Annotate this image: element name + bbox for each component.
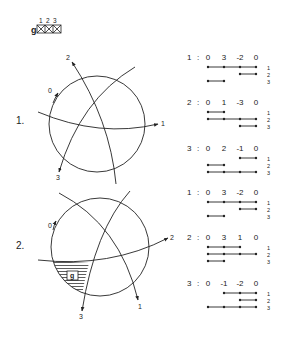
row-label: 2: [267, 163, 270, 169]
block-value: 0: [254, 53, 259, 62]
block-value: 2: [222, 144, 227, 153]
sequence-row: 2: [207, 252, 270, 258]
row-label: 2: [267, 117, 270, 123]
row-label: 2: [267, 207, 270, 213]
sequence-row: 2: [207, 163, 270, 169]
row-label: 3: [267, 124, 270, 130]
diagram-1-curve-2-label: 2: [66, 54, 70, 61]
block-value: 0: [254, 144, 259, 153]
row-label: 2: [267, 72, 270, 78]
block-sep: :: [197, 188, 199, 197]
sequence-row: 1: [207, 65, 270, 71]
diagram-2-label: 2.: [16, 240, 24, 251]
block-value: 1: [238, 233, 243, 242]
diagram-1-curve-2: [72, 62, 116, 184]
sequence-row: 1: [207, 200, 270, 206]
block-value: 0: [206, 233, 211, 242]
block-sep: :: [197, 279, 199, 288]
row-label: 1: [267, 245, 270, 251]
sequence-row: 3: [207, 305, 270, 311]
sequence-row: 2: [239, 72, 270, 78]
legend: g 1 2 3: [31, 17, 61, 35]
block-value: 0: [206, 53, 211, 62]
sequence-block: 2:0310123: [187, 233, 270, 265]
block-value: 3: [222, 53, 227, 62]
block-head: 1: [187, 188, 192, 197]
sequence-row: 2: [207, 117, 270, 123]
legend-col-2: 2: [46, 17, 50, 24]
block-value: 0: [254, 233, 259, 242]
row-label: 3: [267, 170, 270, 176]
legend-prefix: g: [31, 25, 37, 35]
block-value: 0: [206, 188, 211, 197]
row-label: 3: [267, 305, 270, 311]
block-value: -2: [236, 279, 244, 288]
sequence-row: 3: [239, 124, 270, 130]
block-value: -2: [236, 53, 244, 62]
diagram-1-curve-0: [53, 93, 58, 103]
block-value: 3: [222, 233, 227, 242]
block-value: 0: [254, 279, 259, 288]
legend-boxes: [37, 25, 61, 33]
row-label: 2: [267, 298, 270, 304]
block-head: 3: [187, 144, 192, 153]
row-label: 1: [267, 200, 270, 206]
row-label: 3: [267, 79, 270, 85]
sequence-row: 2: [239, 298, 270, 304]
block-value: 0: [206, 144, 211, 153]
block-head: 2: [187, 98, 192, 107]
sequence-row: 1: [207, 245, 270, 251]
diagram-1-curve-3-label: 3: [56, 174, 60, 181]
diagram-canvas: g 1 2 3 1. 0 1 2 3: [0, 0, 282, 340]
block-sep: :: [197, 98, 199, 107]
diagram-2-shaded-region: [40, 261, 89, 296]
sequence-row: 1: [207, 110, 270, 116]
sequence-row: 2: [239, 207, 270, 213]
diagram-1-curve-1-label: 1: [161, 120, 165, 127]
block-value: 0: [206, 98, 211, 107]
sequence-block: 3:0-1-20123: [187, 279, 270, 311]
diagram-2: [38, 191, 168, 311]
diagram-2-curve-1-label: 1: [138, 303, 142, 310]
diagram-2-curve-0-label: 0: [48, 222, 52, 229]
block-head: 3: [187, 279, 192, 288]
sequence-row: 1: [239, 156, 270, 162]
row-label: 1: [267, 65, 270, 71]
block-value: -1: [236, 144, 244, 153]
sequence-row: 1: [223, 291, 270, 297]
sequence-row: 3: [207, 79, 270, 85]
sequence-block: 1:03-20123: [187, 53, 270, 85]
diagram-1-curve-1: [38, 112, 158, 129]
block-head: 1: [187, 53, 192, 62]
row-label: 2: [267, 252, 270, 258]
diagram-2-shaded-label: g: [70, 272, 74, 280]
block-head: 2: [187, 233, 192, 242]
diagram-2-curve-3-label: 3: [79, 313, 83, 320]
block-sep: :: [197, 53, 199, 62]
legend-col-1: 1: [39, 17, 43, 24]
block-sep: :: [197, 144, 199, 153]
row-label: 1: [267, 291, 270, 297]
block-value: 0: [206, 279, 211, 288]
sequence-row: 3: [207, 214, 270, 220]
diagram-1-curve-0-label: 0: [48, 87, 52, 94]
block-value: 3: [222, 188, 227, 197]
row-label: 3: [267, 259, 270, 265]
block-value: 0: [254, 188, 259, 197]
sequence-block: 3:02-10123: [187, 144, 270, 176]
block-sep: :: [197, 233, 199, 242]
legend-col-3: 3: [53, 17, 57, 24]
sequence-row: 3: [207, 170, 270, 176]
block-value: -2: [236, 188, 244, 197]
block-value: 0: [254, 98, 259, 107]
block-value: 1: [222, 98, 227, 107]
block-value: -3: [236, 98, 244, 107]
block-value: -1: [220, 279, 228, 288]
diagram-1: [38, 62, 158, 184]
row-label: 1: [267, 156, 270, 162]
diagram-1-curve-3: [59, 67, 135, 172]
diagram-1-label: 1.: [16, 115, 24, 126]
sequence-row: 3: [207, 259, 270, 265]
row-label: 1: [267, 110, 270, 116]
row-label: 3: [267, 214, 270, 220]
